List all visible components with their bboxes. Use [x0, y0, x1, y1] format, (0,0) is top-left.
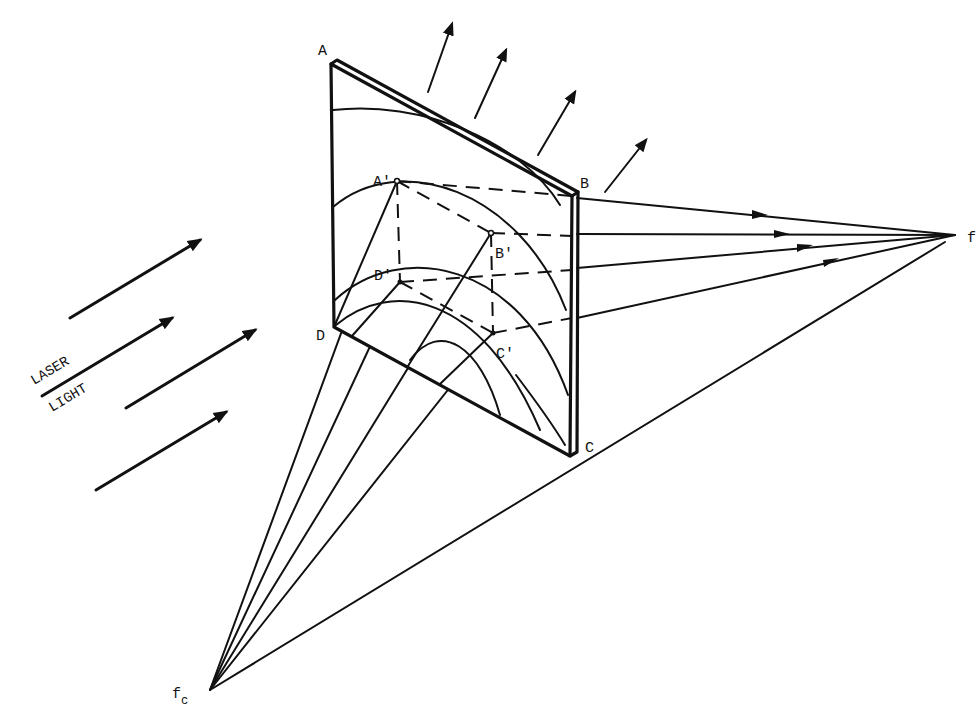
- point-a-prime-label: A': [373, 174, 391, 191]
- outgoing-arrow-icon: [538, 92, 575, 155]
- focus-f-label: f: [967, 230, 976, 247]
- point-b-prime-label: B': [495, 246, 513, 263]
- focus-fc-label: fc: [172, 686, 188, 708]
- corner-a-label: A: [318, 43, 327, 60]
- hologram-diagram: LASER LIGHT: [0, 0, 977, 721]
- incident-laser-arrows: [42, 240, 255, 490]
- outgoing-arrow-icon: [428, 24, 452, 92]
- corner-c-label: C: [585, 440, 594, 457]
- outgoing-arrow-icon: [605, 140, 646, 192]
- corner-d-label: D: [316, 328, 325, 345]
- laser-arrow-icon: [126, 330, 255, 408]
- focus-fc-subscript: c: [181, 694, 188, 708]
- focus-fc-main: f: [172, 686, 181, 703]
- corner-b-label: B: [580, 176, 589, 193]
- laser-arrow-icon: [70, 240, 200, 318]
- light-label: LIGHT: [46, 380, 90, 415]
- laser-arrow-icon: [96, 412, 226, 490]
- point-d-prime-label: D': [374, 268, 392, 285]
- point-c-prime-label: C': [496, 346, 514, 363]
- rays-to-f: [577, 198, 955, 318]
- outgoing-arrow-icon: [475, 50, 506, 118]
